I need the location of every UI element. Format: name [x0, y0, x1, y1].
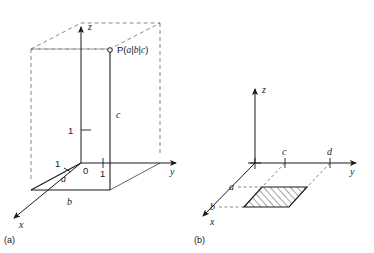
hatched-region: [244, 187, 307, 207]
panel-a-x-axis-label: x: [18, 219, 24, 230]
panel-a-tick-x-one-label: 1: [55, 158, 60, 169]
panel-b-z-axis-label: z: [261, 84, 266, 95]
panel-b: z y x a b c d: [194, 84, 356, 245]
panel-a: z y x P(a|b|c): [4, 21, 176, 245]
figure-page: z y x P(a|b|c): [0, 0, 374, 253]
panel-b-label-c: c: [282, 146, 287, 157]
panel-b-label-a: a: [229, 181, 234, 192]
panel-a-y-axis-label: y: [169, 166, 175, 177]
panel-a-origin-label: 0: [83, 165, 88, 176]
point-p-label: P(a|b|c): [117, 44, 148, 55]
panel-a-edge-label-c: c: [116, 109, 121, 120]
panel-b-label-b: b: [210, 201, 215, 212]
point-p-marker: [108, 48, 113, 53]
panel-b-dash-c-projection: [262, 163, 285, 187]
panel-a-z-axis-label: z: [87, 21, 92, 32]
panel-a-edge-label-a: a: [61, 173, 66, 184]
panel-a-caption: (a): [4, 235, 15, 245]
panel-a-tick-z-one-label: 1: [68, 125, 73, 136]
panel-b-label-d: d: [327, 146, 333, 157]
panel-a-tick-y-one-label: 1: [100, 168, 105, 179]
panel-b-y-axis-label: y: [349, 166, 355, 177]
panel-b-x-axis-label: x: [209, 216, 215, 227]
panel-b-dash-d-projection: [307, 163, 330, 187]
point-p-suffix: ): [145, 44, 148, 55]
base-edge-back-right: [110, 163, 160, 190]
technical-diagram-svg: z y x P(a|b|c): [0, 0, 374, 253]
panel-a-edge-label-b: b: [67, 196, 72, 207]
panel-b-caption: (b): [194, 235, 205, 245]
box-solid-base: [31, 163, 160, 190]
